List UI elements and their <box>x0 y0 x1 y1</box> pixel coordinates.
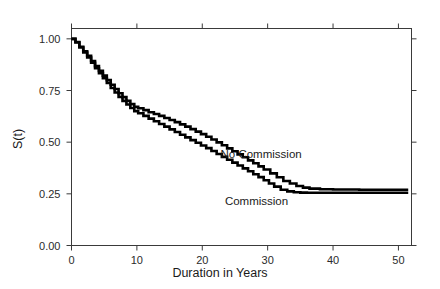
x-tick-label: 30 <box>262 254 274 266</box>
kaplan-meier-chart: 01020304050 0.000.250.500.751.00 No Comm… <box>0 0 440 289</box>
y-tick-label: 0.00 <box>39 240 60 252</box>
y-tick-label: 0.75 <box>39 85 60 97</box>
x-tick-label: 50 <box>392 254 404 266</box>
x-tick-label: 0 <box>68 254 74 266</box>
x-tick-label: 10 <box>131 254 143 266</box>
survival-plot-figure: 01020304050 0.000.250.500.751.00 No Comm… <box>0 0 440 289</box>
y-axis-title: S(t) <box>11 129 25 149</box>
y-tick-label: 0.25 <box>39 188 60 200</box>
x-tick-label: 20 <box>196 254 208 266</box>
x-axis-title: Duration in Years <box>172 266 267 280</box>
y-tick-label: 0.50 <box>39 136 60 148</box>
x-tick-label: 40 <box>327 254 339 266</box>
series-label-no-commission: No Commission <box>221 148 302 160</box>
y-tick-label: 1.00 <box>39 33 60 45</box>
series-label-commission: Commission <box>225 195 288 207</box>
